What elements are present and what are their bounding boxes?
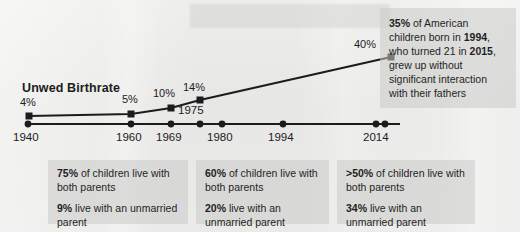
callout-line-both-parents: >50% of children live with both parents xyxy=(346,167,466,194)
data-label-1975: 14% xyxy=(183,81,205,93)
callout-top-year-born: 1994 xyxy=(464,31,487,43)
callout-stat-both-parents: >50% xyxy=(346,167,373,179)
axis-dot-1980 xyxy=(219,121,226,128)
callout-box-2014: >50% of children live with both parents … xyxy=(337,160,475,224)
callout-line-unmarried-parent: 9% live with an unmarried parent xyxy=(57,202,179,229)
axis-dot-2015 xyxy=(382,121,389,128)
axis-dot-1969 xyxy=(168,121,175,128)
callout-stat-unmarried-parent: 9% xyxy=(57,202,72,214)
callout-stat-both-parents: 60% xyxy=(205,167,226,179)
data-label-1960: 5% xyxy=(122,93,138,105)
callout-line-unmarried-parent: 20% live with an unmarried parent xyxy=(205,202,320,229)
callout-top-year-turned: 2015 xyxy=(470,45,493,57)
data-label-1969: 10% xyxy=(153,87,175,99)
callout-stat-unmarried-parent: 34% xyxy=(346,202,367,214)
callout-stat-unmarried-parent: 20% xyxy=(205,202,226,214)
callout-line-both-parents: 75% of children live with both parents xyxy=(57,167,179,194)
x-tick-1960: 1960 xyxy=(116,131,142,143)
axis-dot-2014 xyxy=(373,121,380,128)
x-tick-2014: 2014 xyxy=(363,131,389,143)
x-tick-1969: 1969 xyxy=(156,131,182,143)
data-marker-1960 xyxy=(128,111,135,118)
data-marker-1975 xyxy=(197,97,204,104)
callout-top-stat: 35% xyxy=(389,17,410,29)
callout-box-1980: 60% of children live with both parents 2… xyxy=(196,160,329,224)
x-tick-1994: 1994 xyxy=(268,131,294,143)
infographic-page: Unwed Birthrate 4% 5% 10% 14% 40% 1975 1… xyxy=(0,0,520,232)
x-tick-1940: 1940 xyxy=(13,131,39,143)
axis-dot-1960 xyxy=(128,121,135,128)
annotation-1975: 1975 xyxy=(178,104,204,116)
data-label-2014: 40% xyxy=(354,38,376,50)
callout-text-unmarried-parent: live with an unmarried parent xyxy=(57,202,177,228)
data-marker-1940 xyxy=(26,113,33,120)
callout-line-both-parents: 60% of children live with both parents xyxy=(205,167,320,194)
callout-stat-both-parents: 75% xyxy=(57,167,78,179)
axis-dot-1994 xyxy=(280,121,287,128)
callout-box-1940: 75% of children live with both parents 9… xyxy=(48,160,188,224)
axis-dot-1940 xyxy=(25,121,32,128)
callout-top-paragraph: 35% of American children born in 1994, w… xyxy=(389,16,508,100)
callout-fatherless-statistic: 35% of American children born in 1994, w… xyxy=(380,8,516,108)
x-tick-1980: 1980 xyxy=(207,131,233,143)
chart-title: Unwed Birthrate xyxy=(22,81,120,95)
data-marker-1969 xyxy=(168,105,175,112)
axis-dot-1975 xyxy=(197,121,204,128)
callout-line-unmarried-parent: 34% live with an unmarried parent xyxy=(346,202,466,229)
data-label-1940: 4% xyxy=(20,96,36,108)
